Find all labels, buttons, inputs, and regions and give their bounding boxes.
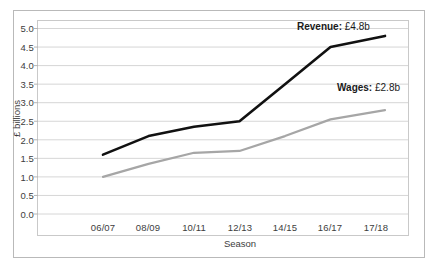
y-tick-1-0: 1.0 bbox=[2, 172, 34, 183]
y-tick-4-0: 4.0 bbox=[2, 60, 34, 71]
y-tick-1-5: 1.5 bbox=[2, 153, 34, 164]
y-tick-5-0: 5.0 bbox=[2, 23, 34, 34]
y-axis-title: £ billions bbox=[11, 89, 22, 149]
x-tick-16-17: 16/17 bbox=[308, 222, 352, 233]
y-tick-0-5: 0.5 bbox=[2, 190, 34, 201]
wages-label-name: Wages: bbox=[337, 82, 372, 93]
x-tick-06-07: 06/07 bbox=[81, 222, 125, 233]
plot-area-frame bbox=[38, 21, 409, 236]
x-tick-12-13: 12/13 bbox=[218, 222, 262, 233]
y-tick-0-0: 0.0 bbox=[2, 209, 34, 220]
chart-figure: 5.0 4.5 4.0 3.5 3.0 2.5 2.0 1.5 1.0 0.5 … bbox=[0, 0, 444, 274]
wages-series-label: Wages: £2.8b bbox=[337, 82, 400, 93]
x-tick-08-09: 08/09 bbox=[126, 222, 170, 233]
revenue-label-name: Revenue: bbox=[297, 21, 342, 32]
y-tick-4-5: 4.5 bbox=[2, 42, 34, 53]
x-tick-17-18: 17/18 bbox=[354, 222, 398, 233]
revenue-series-label: Revenue: £4.8b bbox=[297, 21, 370, 32]
revenue-label-value: £4.8b bbox=[342, 21, 370, 32]
x-tick-14-15: 14/15 bbox=[263, 222, 307, 233]
x-tick-10-11: 10/11 bbox=[172, 222, 216, 233]
x-axis-title: Season bbox=[200, 238, 280, 249]
wages-label-value: £2.8b bbox=[372, 82, 400, 93]
